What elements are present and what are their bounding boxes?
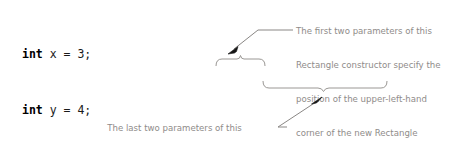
annotation-top-line: position of the upper-left-hand [296, 94, 441, 105]
keyword-token: int [22, 103, 43, 117]
keyword-token: int [22, 47, 43, 61]
annotation-top-line: Rectangle constructor specify the [296, 60, 441, 71]
figure-canvas: int x = 3; int y = 4; int width = 5; int… [0, 0, 471, 151]
annotation-bottom-line: The last two parameters of this [62, 123, 287, 134]
annotation-top-line: corner of the new Rectangle [296, 128, 441, 139]
annotation-bottom: The last two parameters of this Rectangl… [62, 100, 287, 151]
annotation-top: The first two parameters of this Rectang… [296, 3, 441, 151]
annotation-top-line: The first two parameters of this [296, 26, 441, 37]
code-text: x = 3; [43, 47, 91, 61]
